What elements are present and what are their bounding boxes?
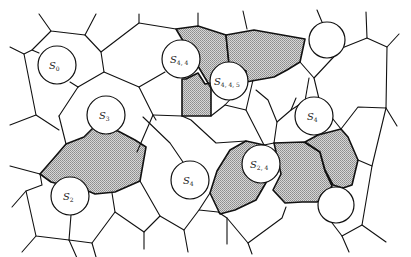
site-s4-right: S4 [295,97,333,135]
site-s44: S4, 4 [162,40,200,78]
site-circle [309,22,345,58]
site-s3: S3 [87,96,125,134]
site-s0: S0 [38,46,76,84]
site-s2: S2 [51,177,89,215]
site-s24: S2, 4 [242,145,280,183]
diagram-canvas: S0 S4, 4 S4, 4, 5 S3 S4 S2 S4 [0,0,411,257]
site-s445: S4, 4, 5 [210,62,248,100]
site-circle [318,187,354,223]
site-top-right [309,22,345,58]
site-bottom-right [318,187,354,223]
site-s4-center: S4 [171,161,209,199]
voronoi-diagram: S0 S4, 4 S4, 4, 5 S3 S4 S2 S4 [0,0,411,257]
